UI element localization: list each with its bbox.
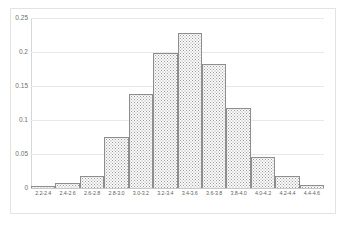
x-axis-baseline: 0 xyxy=(31,188,324,189)
histogram-bar xyxy=(275,176,299,188)
histogram-bar xyxy=(153,53,177,188)
bar-slot xyxy=(80,18,104,188)
bar-slot xyxy=(275,18,299,188)
plot-area: 0.250.20.150.10.050 xyxy=(31,18,324,188)
bar-slot xyxy=(153,18,177,188)
x-axis-tick-label: 4.4-4.6 xyxy=(300,191,324,197)
y-axis-tick-label: 0.15 xyxy=(15,83,28,90)
bar-slot xyxy=(251,18,275,188)
x-axis-tick-label: 3.2-3.4 xyxy=(153,191,177,197)
x-axis-tick-label: 4.0-4.2 xyxy=(251,191,275,197)
histogram-bar xyxy=(251,157,275,188)
bar-slot xyxy=(178,18,202,188)
x-axis-tick-label: 2.4-2.6 xyxy=(55,191,79,197)
bar-slot xyxy=(104,18,128,188)
histogram-bar xyxy=(55,183,79,188)
x-axis-tick-label: 2.8-3.0 xyxy=(104,191,128,197)
histogram-bar xyxy=(104,137,128,188)
histogram-bar xyxy=(226,108,250,188)
x-axis-tick-labels: 2.2-2.42.4-2.62.6-2.82.8-3.03.0-3.23.2-3… xyxy=(31,191,324,197)
histogram-bar xyxy=(178,33,202,188)
y-axis-tick-label: 0.25 xyxy=(15,15,28,22)
histogram-bar xyxy=(80,176,104,188)
y-axis-tick-label: 0.2 xyxy=(19,49,28,56)
bar-slot xyxy=(300,18,324,188)
histogram-bar xyxy=(129,94,153,188)
bar-slot xyxy=(55,18,79,188)
bar-slot xyxy=(31,18,55,188)
x-axis-tick-label: 3.4-3.6 xyxy=(178,191,202,197)
histogram-bar xyxy=(202,64,226,188)
histogram-bar xyxy=(31,186,55,188)
x-axis-tick-label: 2.2-2.4 xyxy=(31,191,55,197)
x-axis-tick-label: 4.2-4.4 xyxy=(275,191,299,197)
x-axis-tick-label: 2.6-2.8 xyxy=(80,191,104,197)
bar-slot xyxy=(129,18,153,188)
x-axis-tick-label: 3.8-4.0 xyxy=(226,191,250,197)
y-axis-tick-label: 0 xyxy=(24,185,28,192)
y-axis-tick-label: 0.05 xyxy=(15,151,28,158)
bars-group xyxy=(31,18,324,188)
y-axis-tick-label: 0.1 xyxy=(19,117,28,124)
x-axis-tick-label: 3.6-3.8 xyxy=(202,191,226,197)
histogram-figure: 0.250.20.150.10.050 2.2-2.42.4-2.62.6-2.… xyxy=(0,0,346,225)
bar-slot xyxy=(226,18,250,188)
x-axis-tick-label: 3.0-3.2 xyxy=(129,191,153,197)
bar-slot xyxy=(202,18,226,188)
histogram-bar xyxy=(300,185,324,188)
